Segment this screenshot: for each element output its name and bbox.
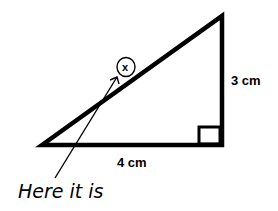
- right-angle-marker: [199, 127, 220, 144]
- triangle-diagram: x 3 cm 4 cm Here it is: [0, 0, 278, 211]
- horizontal-side-label: 4 cm: [117, 155, 147, 170]
- right-triangle: [42, 16, 222, 145]
- annotation-text: Here it is: [18, 180, 104, 202]
- vertical-side-label: 3 cm: [231, 73, 261, 88]
- unknown-label: x: [122, 61, 129, 73]
